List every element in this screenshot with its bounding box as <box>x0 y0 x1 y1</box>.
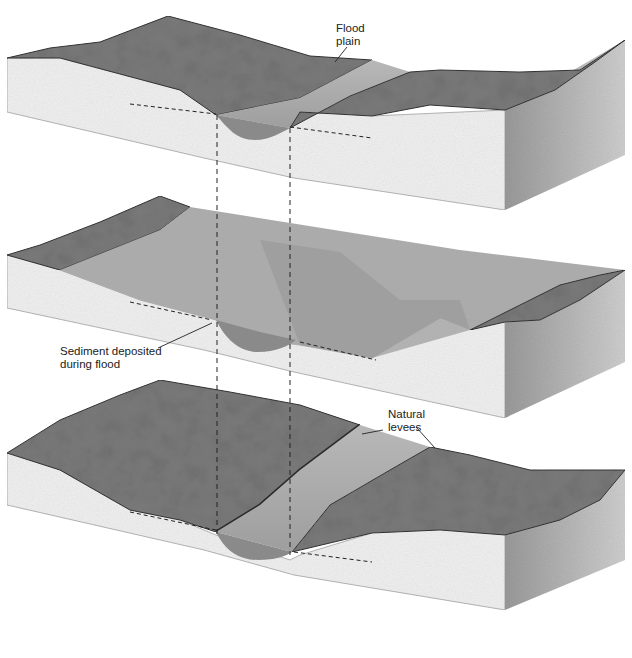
panel-after-flood <box>7 380 625 610</box>
sediment-label-line1: Sediment deposited <box>60 345 162 358</box>
panel-during-flood <box>7 196 625 418</box>
sediment-label: Sediment deposited during flood <box>60 345 162 371</box>
levees-label-line2: levees <box>388 421 425 434</box>
sediment-label-line2: during flood <box>60 358 162 371</box>
natural-levees-label: Natural levees <box>388 408 425 434</box>
side-face <box>505 40 625 210</box>
flood-plain-label-line1: Flood <box>336 22 365 35</box>
flood-plain-label: Flood plain <box>336 22 365 48</box>
flood-plain-diagram <box>0 0 632 658</box>
levees-label-line1: Natural <box>388 408 425 421</box>
panel-before-flood <box>7 16 625 210</box>
flood-plain-label-line2: plain <box>336 35 365 48</box>
